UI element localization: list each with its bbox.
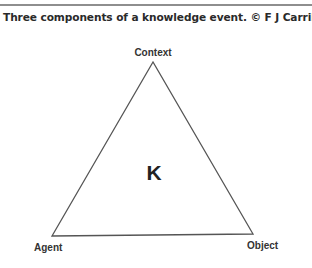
triangle-shape bbox=[52, 62, 253, 236]
vertex-label-context: Context bbox=[134, 47, 172, 58]
vertex-label-agent: Agent bbox=[34, 242, 63, 253]
vertex-label-object: Object bbox=[247, 240, 279, 251]
center-label-k: K bbox=[146, 161, 161, 184]
knowledge-triangle-diagram: Context Agent Object K bbox=[0, 0, 312, 268]
